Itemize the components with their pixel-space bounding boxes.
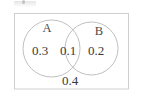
venn-diagram-figure: A B 0.3 0.1 0.2 0.4 — [0, 0, 141, 97]
set-a-label: A — [42, 21, 51, 35]
outside-sets-value: 0.4 — [62, 73, 79, 88]
set-b-only-value: 0.2 — [88, 43, 104, 58]
set-b-label: B — [95, 24, 103, 38]
intersection-value: 0.1 — [60, 43, 76, 58]
venn-diagram-canvas: A B 0.3 0.1 0.2 0.4 — [0, 0, 141, 97]
set-a-only-value: 0.3 — [32, 43, 48, 58]
